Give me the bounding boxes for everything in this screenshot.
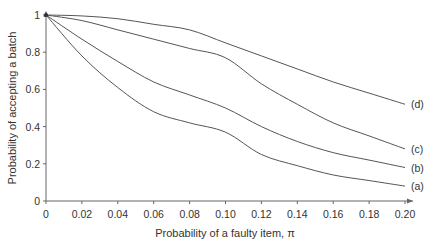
x-tick-label: 0.08 [179, 208, 200, 220]
y-tick-label: 0.2 [25, 158, 40, 170]
curve-label: (d) [411, 98, 424, 110]
curve-label: (c) [411, 143, 423, 155]
y-tick-label: 0.4 [25, 121, 40, 133]
x-tick-label: 0 [43, 208, 49, 220]
y-tick-label: 0.6 [25, 83, 40, 95]
x-tick-label: 0.16 [323, 208, 344, 220]
x-tick-label: 0.12 [251, 208, 272, 220]
y-axis-label: Probability of accepting a batch [6, 32, 18, 185]
x-tick-label: 0.14 [287, 208, 308, 220]
y-tick-label: 0.8 [25, 46, 40, 58]
curve-label: (b) [411, 162, 424, 174]
curve-c [46, 15, 405, 149]
x-axis-label: Probability of a faulty item, π [155, 227, 295, 239]
origin-point [44, 13, 48, 17]
y-tick-label: 0 [34, 195, 40, 207]
curves [44, 13, 405, 186]
x-tick-label: 0.02 [72, 208, 93, 220]
x-axis-arrow-icon [407, 199, 413, 204]
x-tick-label: 0.10 [215, 208, 236, 220]
x-tick-label: 0.06 [143, 208, 164, 220]
curve-label: (a) [411, 180, 424, 192]
curve-b [46, 15, 405, 168]
x-tick-label: 0.04 [108, 208, 129, 220]
x-tick-label: 0.18 [359, 208, 380, 220]
curve-a [46, 15, 405, 186]
oc-curve-chart: 00.020.040.060.080.100.120.140.160.180.2… [0, 0, 433, 248]
curve-d [46, 15, 405, 104]
y-tick-label: 1 [34, 9, 40, 21]
labels: (a)(b)(c)(d) [411, 98, 424, 192]
x-tick-label: 0.20 [395, 208, 416, 220]
